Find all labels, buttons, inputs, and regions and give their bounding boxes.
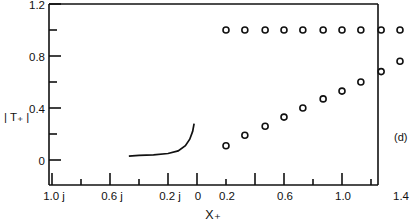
x-tick-label: 0: [195, 190, 201, 202]
series-lower-branch: [223, 58, 403, 149]
x-axis-title-text: X₊: [205, 208, 220, 222]
data-point-marker: [358, 79, 364, 85]
data-point-marker: [242, 132, 248, 138]
data-point-marker: [281, 27, 287, 33]
x-tick-label: 0.2 j: [159, 190, 181, 202]
y-axis-title-text: | T₊ |: [4, 111, 29, 123]
data-point-marker: [262, 27, 268, 33]
data-point-marker: [339, 27, 345, 33]
y-tick-label: 0.4: [29, 103, 46, 115]
data-point-marker: [223, 27, 229, 33]
data-point-marker: [242, 27, 248, 33]
data-point-marker: [262, 123, 268, 129]
x-tick-label: 1.4: [393, 190, 410, 202]
panel-label: (d): [394, 131, 407, 143]
data-point-marker: [378, 69, 384, 75]
x-tick-label: 1.0: [335, 190, 351, 202]
scatter-plot: 1.2 0.8 0.4 0 | T₊ | 1.0 j 0.6 j: [0, 0, 419, 223]
y-tick-labels: 1.2 0.8 0.4 0: [29, 0, 46, 167]
x-tick-label: 0.6: [277, 190, 293, 202]
y-tick-label: 1.2: [29, 0, 45, 11]
data-point-marker: [320, 96, 326, 102]
plot-frame: [49, 4, 378, 185]
y-tick-label: 0.8: [29, 51, 45, 63]
y-axis-title: | T₊ |: [4, 111, 29, 123]
data-point-marker: [358, 27, 364, 33]
x-axis-ticks: [52, 173, 371, 185]
x-tick-label: 1.0 j: [43, 190, 65, 202]
data-point-marker: [339, 88, 345, 94]
data-point-marker: [320, 27, 326, 33]
data-point-marker: [397, 58, 403, 64]
data-point-marker: [300, 105, 306, 111]
series-upper-branch: [223, 27, 403, 33]
x-tick-label: 0.2: [219, 190, 235, 202]
y-axis-ticks: [49, 4, 61, 160]
y-tick-label: 0: [39, 155, 45, 167]
x-axis-title: X₊: [205, 208, 220, 222]
series-solid-curve: [129, 124, 194, 157]
x-tick-label: 0.6 j: [101, 190, 123, 202]
data-point-marker: [223, 143, 229, 149]
x-tick-labels: 1.0 j 0.6 j 0.2 j 0 0.2 0.6 1.0 1.4: [43, 190, 409, 202]
data-point-marker: [281, 114, 287, 120]
data-point-marker: [397, 27, 403, 33]
data-point-marker: [378, 27, 384, 33]
figure-panel: 1.2 0.8 0.4 0 | T₊ | 1.0 j 0.6 j: [0, 0, 419, 223]
data-point-marker: [300, 27, 306, 33]
